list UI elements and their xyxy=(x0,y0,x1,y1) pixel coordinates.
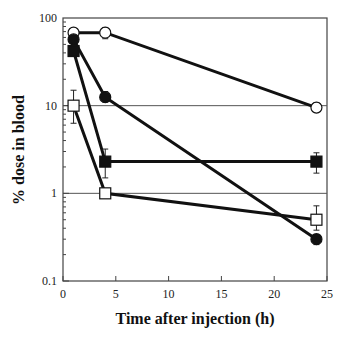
data-series xyxy=(68,27,322,244)
filled-square-marker xyxy=(311,156,322,167)
x-tick-label: 10 xyxy=(163,287,175,301)
series-line xyxy=(74,39,317,239)
x-tick-label: 25 xyxy=(321,287,333,301)
filled-circle-marker xyxy=(100,92,111,103)
open-square-marker xyxy=(100,188,111,199)
line-chart: 0.1110100 0510152025 Time after injectio… xyxy=(0,0,346,340)
filled-circle-marker xyxy=(311,234,322,245)
y-tick-label: 100 xyxy=(39,11,57,25)
x-tick-label: 5 xyxy=(113,287,119,301)
y-axis-ticks: 0.1110100 xyxy=(39,11,69,288)
open-circle-marker xyxy=(100,27,111,38)
open-square-marker xyxy=(68,100,79,111)
x-axis-label: Time after injection (h) xyxy=(116,310,275,328)
y-tick-label: 10 xyxy=(45,99,57,113)
y-tick-label: 1 xyxy=(51,186,57,200)
series-line xyxy=(74,51,317,162)
open-circle-marker xyxy=(311,102,322,113)
filled-square-marker xyxy=(68,46,79,57)
y-tick-label: 0.1 xyxy=(42,274,57,288)
x-axis-ticks: 0510152025 xyxy=(60,276,333,301)
x-tick-label: 15 xyxy=(215,287,227,301)
filled-circle-marker xyxy=(68,34,79,45)
x-tick-label: 20 xyxy=(268,287,280,301)
y-axis-label: % dose in blood xyxy=(10,95,27,205)
x-tick-label: 0 xyxy=(60,287,66,301)
open-square-marker xyxy=(311,214,322,225)
filled-square-marker xyxy=(100,156,111,167)
